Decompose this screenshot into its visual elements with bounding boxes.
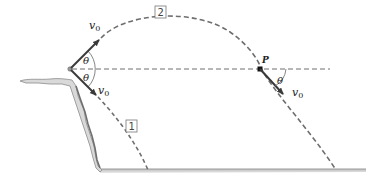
- point-p-label: P: [261, 55, 269, 65]
- velocity-label-lower: v0: [98, 84, 109, 98]
- trajectory-1-label: 1: [126, 120, 137, 132]
- angle-label-lower: θ: [83, 72, 89, 83]
- angle-label-at-p: θ: [277, 75, 283, 86]
- svg-text:2: 2: [158, 7, 164, 18]
- cliff: [20, 79, 102, 172]
- svg-text:1: 1: [129, 121, 135, 132]
- trajectory-2-label: 2: [155, 6, 166, 18]
- velocity-label-at-p: v0: [292, 86, 303, 100]
- trajectory-1-path: [98, 97, 148, 170]
- velocity-label-upper: v0: [89, 19, 100, 33]
- projectile-diagram: v0 v0 v0 θ θ θ P 2 1: [0, 0, 383, 186]
- angle-label-upper: θ: [83, 55, 89, 66]
- ground: [100, 169, 366, 173]
